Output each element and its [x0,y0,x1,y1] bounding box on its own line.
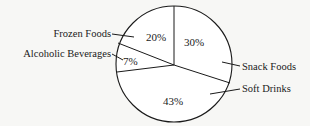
label-soft-drinks: Soft Drinks [242,83,291,94]
label-alcoholic-beverages: Alcoholic Beverages [23,48,111,59]
label-snack-foods: Snack Foods [242,61,296,72]
percent-frozen-foods: 20% [146,31,166,43]
label-frozen-foods: Frozen Foods [54,28,111,39]
percent-snack-foods: 30% [184,36,204,48]
percent-soft-drinks: 43% [163,95,183,107]
percent-alcoholic-beverages: 7% [123,55,138,67]
pie-chart: 20% 30% 7% 43% Frozen Foods Alcoholic Be… [0,0,310,126]
